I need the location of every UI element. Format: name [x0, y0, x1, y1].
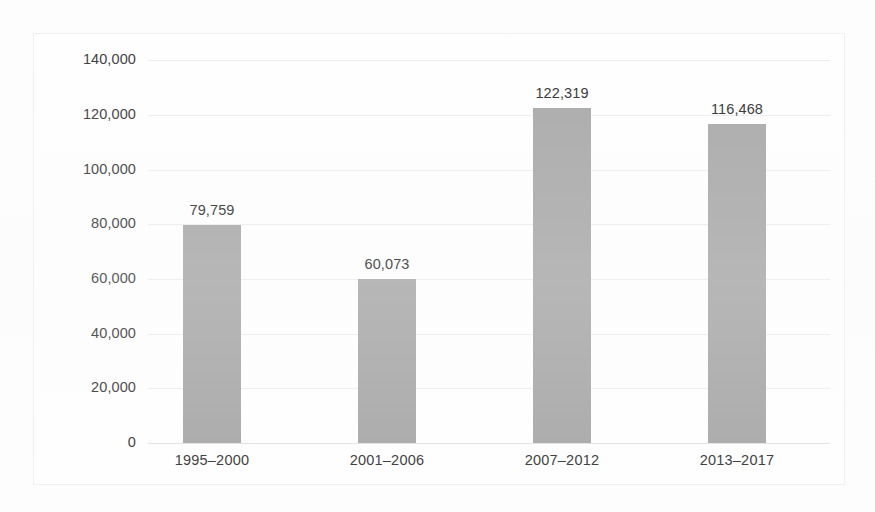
- ytick-label: 80,000: [36, 215, 136, 231]
- bar-1995-2000[interactable]: [183, 225, 241, 443]
- gridline-140000: [148, 60, 830, 61]
- bar-2013-2017[interactable]: [708, 124, 766, 443]
- category-label-1995-2000: 1995–2000: [152, 452, 272, 468]
- bar-value-label: 79,759: [157, 202, 267, 218]
- ytick-label: 120,000: [36, 106, 136, 122]
- bar-value-label: 122,319: [507, 85, 617, 101]
- ytick-label: 100,000: [36, 161, 136, 177]
- ytick-label: 0: [36, 434, 136, 450]
- bar-2007-2012[interactable]: [533, 108, 591, 443]
- chart-page: 140,000 120,000 100,000 80,000 60,000 40…: [0, 0, 875, 512]
- ytick-label: 40,000: [36, 325, 136, 341]
- bar-value-label: 116,468: [682, 101, 792, 117]
- category-label-2013-2017: 2013–2017: [677, 452, 797, 468]
- category-label-2001-2006: 2001–2006: [327, 452, 447, 468]
- bar-2001-2006[interactable]: [358, 279, 416, 443]
- ytick-label: 60,000: [36, 270, 136, 286]
- bar-chart-plot-area: 140,000 120,000 100,000 80,000 60,000 40…: [0, 0, 875, 512]
- bar-value-label: 60,073: [332, 256, 442, 272]
- gridline-axis-zero: [148, 443, 830, 444]
- ytick-label: 140,000: [36, 51, 136, 67]
- category-label-2007-2012: 2007–2012: [502, 452, 622, 468]
- ytick-label: 20,000: [36, 379, 136, 395]
